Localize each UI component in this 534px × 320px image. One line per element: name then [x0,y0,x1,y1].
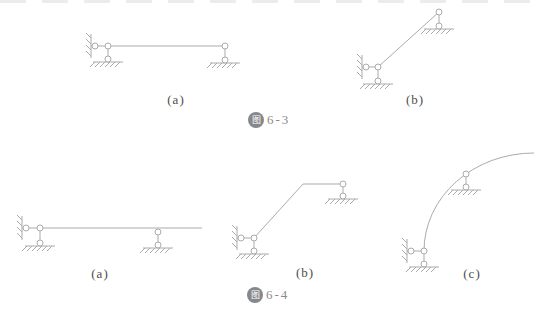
hinge-circle [251,235,257,241]
hinge-circle [222,57,228,63]
hatched-wall-icon [17,215,22,240]
hatched-ground-icon [207,63,240,68]
hatched-ground-icon [360,84,393,89]
hinge-circle [436,9,442,15]
structural-diagrams-canvas [0,0,534,320]
fig-6-4c-drawing [402,153,534,272]
hinge-circle [421,261,427,267]
subfigure-label-6-4a: (a) [91,266,108,282]
hinge-circle [463,171,469,177]
fig-6-4a-drawing [17,215,202,253]
hatched-ground-icon [90,62,123,67]
hinge-circle [463,184,469,190]
hinge-circle [363,64,369,70]
hatched-ground-icon [421,29,454,34]
hinge-circle [222,43,228,49]
subfigure-label-6-4b: (b) [296,265,314,281]
hatched-ground-icon [406,267,439,272]
hinge-circle [238,235,244,241]
hinge-circle [105,56,111,62]
fig-6-4b-drawing [232,181,358,259]
hinge-circle [23,225,29,231]
figure-badge-icon: 图 [247,287,263,303]
hatched-wall-icon [232,225,237,250]
hinge-circle [251,248,257,254]
subfigure-label-6-4c: (c) [463,266,480,282]
hinge-circle [37,225,43,231]
hatched-wall-icon [357,54,362,79]
fig-6-3a-drawing [86,33,240,68]
subfigure-label-6-3b: (b) [406,92,424,108]
inclined-member [254,184,303,238]
hatched-ground-icon [22,246,55,251]
hatched-ground-icon [140,248,173,253]
hinge-circle [421,248,427,254]
figure-number: 6-4 [266,287,289,303]
hinge-circle [375,64,381,70]
figure-caption-6-4: 图 6-4 [247,287,289,303]
hinge-circle [155,229,161,235]
hinge-circle [340,193,346,199]
hatched-wall-icon [86,33,91,58]
figure-badge-icon: 图 [248,112,264,128]
hinge-circle [436,23,442,29]
hinge-circle [105,43,111,49]
hinge-circle [375,78,381,84]
fig-6-3b-drawing [357,9,454,89]
textbook-figure-page: (a) (b) (a) (b) (c) 图 6-3 图 6-4 [0,0,534,320]
figure-number: 6-3 [267,112,290,128]
hinge-circle [340,181,346,187]
hatched-wall-icon [402,238,407,263]
hinge-circle [155,242,161,248]
hinge-circle [92,43,98,49]
hatched-ground-icon [325,199,358,204]
hatched-ground-icon [236,254,269,259]
inclined-member [378,12,439,67]
figure-caption-6-3: 图 6-3 [248,112,290,128]
hinge-circle [408,248,414,254]
hatched-ground-icon [448,190,481,195]
hinge-circle [37,240,43,246]
curved-member [424,153,534,251]
subfigure-label-6-3a: (a) [167,92,184,108]
